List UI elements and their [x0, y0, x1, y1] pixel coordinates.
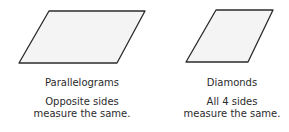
parallelogram-title: Parallelograms — [32, 77, 132, 89]
parallelogram-shape — [19, 11, 145, 63]
diamond-desc-line1: All 4 sides — [172, 96, 289, 108]
diamond-shape — [186, 10, 273, 62]
parallelogram-desc-line1: Opposite sides — [22, 96, 142, 108]
diamond-description: All 4 sides measure the same. — [172, 96, 289, 120]
parallelogram-desc-line2: measure the same. — [22, 108, 142, 120]
diamond-desc-line2: measure the same. — [172, 108, 289, 120]
diamond-title: Diamonds — [182, 77, 282, 89]
parallelogram-description: Opposite sides measure the same. — [22, 96, 142, 120]
